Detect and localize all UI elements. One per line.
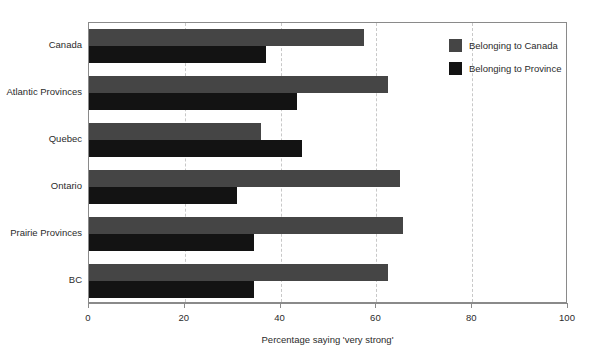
bar-group xyxy=(89,123,566,157)
x-axis: 020406080100 xyxy=(88,303,567,304)
category-axis-labels: CanadaAtlantic ProvincesQuebecOntarioPra… xyxy=(0,22,82,303)
bar-chart-figure: CanadaAtlantic ProvincesQuebecOntarioPra… xyxy=(0,0,590,363)
bar[interactable] xyxy=(89,29,364,46)
x-tick-label-20: 20 xyxy=(179,312,190,323)
bar[interactable] xyxy=(89,76,388,93)
bar[interactable] xyxy=(89,170,400,187)
x-tick-label-40: 40 xyxy=(274,312,285,323)
x-tick-80 xyxy=(471,303,472,308)
bar[interactable] xyxy=(89,46,266,63)
x-tick-label-0: 0 xyxy=(85,312,90,323)
category-label-canada: Canada xyxy=(0,39,82,50)
bar[interactable] xyxy=(89,93,297,110)
bar[interactable] xyxy=(89,123,261,140)
bar-group xyxy=(89,264,566,298)
legend-item-belonging-to-canada[interactable]: Belonging to Canada xyxy=(449,36,561,54)
x-tick-0 xyxy=(88,303,89,308)
x-tick-label-100: 100 xyxy=(559,312,575,323)
legend-item-belonging-to-province[interactable]: Belonging to Province xyxy=(449,59,561,77)
bar[interactable] xyxy=(89,140,302,157)
bar[interactable] xyxy=(89,264,388,281)
legend: Belonging to Canada Belonging to Provinc… xyxy=(449,36,561,82)
category-label-quebec: Quebec xyxy=(0,133,82,144)
bar[interactable] xyxy=(89,217,403,234)
bar-group xyxy=(89,170,566,204)
category-label-atlantic-provinces: Atlantic Provinces xyxy=(0,86,82,97)
bar[interactable] xyxy=(89,187,237,204)
x-tick-40 xyxy=(280,303,281,308)
category-label-prairie-provinces: Prairie Provinces xyxy=(0,227,82,238)
x-tick-60 xyxy=(375,303,376,308)
bar[interactable] xyxy=(89,281,254,298)
category-label-ontario: Ontario xyxy=(0,180,82,191)
x-tick-label-60: 60 xyxy=(370,312,381,323)
legend-swatch-icon xyxy=(449,62,462,75)
x-tick-100 xyxy=(567,303,568,308)
legend-label: Belonging to Province xyxy=(469,63,561,74)
x-axis-title: Percentage saying 'very strong' xyxy=(88,334,567,345)
legend-label: Belonging to Canada xyxy=(469,40,558,51)
bar-group xyxy=(89,217,566,251)
bar[interactable] xyxy=(89,234,254,251)
x-tick-label-80: 80 xyxy=(466,312,477,323)
legend-swatch-icon xyxy=(449,39,462,52)
x-tick-20 xyxy=(184,303,185,308)
category-label-bc: BC xyxy=(0,274,82,285)
